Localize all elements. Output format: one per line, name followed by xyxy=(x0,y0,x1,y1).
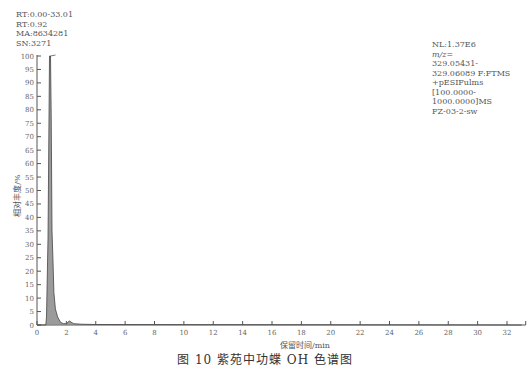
x-tick-label: 20 xyxy=(326,329,335,337)
x-tick-label: 22 xyxy=(356,329,365,337)
x-axis-label: 保留时间/min xyxy=(280,339,330,350)
x-tick-label: 24 xyxy=(385,329,394,337)
chromatogram-trace xyxy=(37,56,522,325)
y-tick-label: 55 xyxy=(25,174,34,182)
y-tick-label: 60 xyxy=(25,160,34,168)
x-tick-label: 26 xyxy=(414,329,423,337)
x-tick-label: 2 xyxy=(64,329,68,337)
y-tick-label: 90 xyxy=(25,79,34,87)
x-tick-label: 0 xyxy=(35,329,39,337)
y-tick-label: 70 xyxy=(25,133,34,141)
y-tick-label: 10 xyxy=(25,295,34,303)
x-tick-label: 30 xyxy=(473,329,482,337)
y-tick-label: 30 xyxy=(25,241,34,249)
y-tick-label: 0 xyxy=(30,322,34,330)
figure-caption: 图 10 紫苑中功蝶 OH 色谱图 xyxy=(0,350,530,367)
y-tick-label: 35 xyxy=(25,227,34,235)
y-tick-label: 65 xyxy=(25,147,34,155)
y-tick-label: 95 xyxy=(25,66,34,74)
y-tick-label: 80 xyxy=(25,106,34,114)
y-tick-label: 85 xyxy=(25,93,34,101)
x-tick-label: 4 xyxy=(94,329,99,337)
y-tick-label: 100 xyxy=(21,53,34,61)
x-tick-label: 16 xyxy=(268,329,277,337)
peak-fill xyxy=(37,56,522,325)
y-tick-label: 5 xyxy=(30,308,34,316)
y-tick-label: 15 xyxy=(25,281,34,289)
y-tick-label: 45 xyxy=(25,200,34,208)
peak-apex-marker xyxy=(51,55,56,56)
y-tick-label: 75 xyxy=(25,120,34,128)
x-tick-label: 10 xyxy=(179,329,188,337)
y-tick-label: 40 xyxy=(25,214,34,222)
y-tick-label: 50 xyxy=(25,187,34,195)
x-tick-label: 8 xyxy=(152,329,156,337)
y-tick-label: 20 xyxy=(25,268,34,276)
y-tick-label: 25 xyxy=(25,254,34,262)
x-tick-label: 32 xyxy=(503,329,512,337)
y-axis-label: 相对丰度/% xyxy=(11,166,22,226)
x-tick-label: 18 xyxy=(297,329,306,337)
x-tick-label: 6 xyxy=(123,329,128,337)
x-tick-label: 14 xyxy=(238,329,247,337)
x-tick-label: 28 xyxy=(444,329,453,337)
x-tick-label: 12 xyxy=(209,329,218,337)
